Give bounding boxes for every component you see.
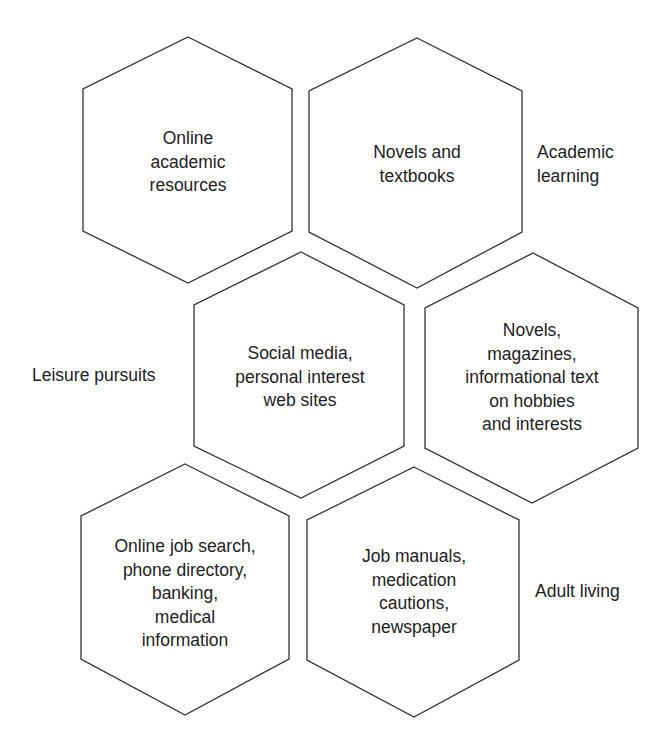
hex-line: textbooks [373, 164, 461, 188]
hex-line: resources [150, 174, 227, 198]
hex-line: academic [150, 150, 227, 174]
row-label-adult-living: Adult living [535, 580, 620, 604]
hex-text-adult-digital: Online job search, phone directory, bank… [114, 535, 255, 653]
hex-line: magazines, [465, 343, 598, 367]
hex-line: Job manuals, [362, 545, 466, 569]
hex-line: information [114, 629, 255, 653]
hex-line: banking, [114, 582, 255, 606]
hex-line: cautions, [362, 592, 466, 616]
row-label-leisure-pursuits: Leisure pursuits [32, 364, 156, 388]
row-label-line: Leisure pursuits [32, 364, 156, 388]
hex-text-academic-print: Novels and textbooks [373, 141, 461, 188]
hex-line: on hobbies [465, 390, 598, 414]
hex-text-leisure-print: Novels, magazines, informational text on… [465, 319, 598, 437]
hex-line: phone directory, [114, 559, 255, 583]
hex-line: web sites [235, 389, 364, 413]
hex-line: and interests [465, 413, 598, 437]
hex-line: personal interest [235, 365, 364, 389]
hex-line: Online [150, 127, 227, 151]
row-label-line: learning [537, 164, 614, 188]
row-label-academic-learning: Academic learning [537, 141, 614, 188]
hex-text-leisure-digital: Social media, personal interest web site… [235, 342, 364, 413]
hex-text-adult-print: Job manuals, medication cautions, newspa… [362, 545, 466, 639]
row-label-line: Academic [537, 141, 614, 165]
hex-line: medication [362, 569, 466, 593]
hex-line: Novels, [465, 319, 598, 343]
hex-line: Online job search, [114, 535, 255, 559]
hex-line: informational text [465, 366, 598, 390]
hex-line: Novels and [373, 141, 461, 165]
hex-line: Social media, [235, 342, 364, 366]
hex-text-academic-digital: Online academic resources [150, 127, 227, 198]
hex-line: newspaper [362, 616, 466, 640]
row-label-line: Adult living [535, 580, 620, 604]
hex-line: medical [114, 606, 255, 630]
